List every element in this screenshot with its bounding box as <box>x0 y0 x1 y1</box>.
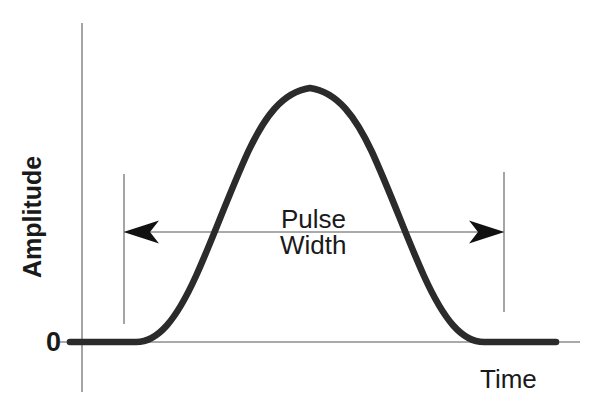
pulse-width-annotation-line1: Pulse <box>281 206 346 232</box>
y-axis-label: Amplitude <box>20 156 45 278</box>
x-axis-label: Time <box>480 366 537 392</box>
zero-baseline-label: 0 <box>46 329 61 356</box>
pulse-width-annotation-line2: Width <box>280 232 346 258</box>
pulse-width-figure: Amplitude 0 Time Pulse Width <box>0 0 604 417</box>
